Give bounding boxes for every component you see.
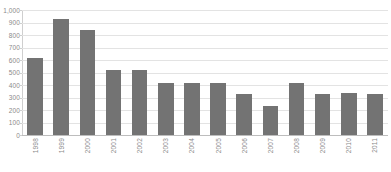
x-axis-tick-label: 2011	[371, 138, 378, 153]
x-axis-tick-label: 2008	[293, 138, 300, 153]
x-axis-tick-label: 2001	[110, 138, 117, 153]
x-axis-tick-label: 1998	[32, 138, 39, 153]
x-axis-tick-label: 2007	[267, 138, 274, 153]
y-axis-tick-label: 700	[0, 44, 20, 51]
bar	[315, 94, 331, 135]
bar	[132, 70, 148, 135]
y-axis-tick-label: 1,000	[0, 7, 20, 14]
bar	[210, 83, 226, 136]
x-axis-tick-label: 2004	[188, 138, 195, 153]
y-axis-tick-label: 100	[0, 119, 20, 126]
bar	[367, 94, 383, 135]
x-axis-tick-label: 2002	[136, 138, 143, 153]
x-axis-tick-label: 2006	[241, 138, 248, 153]
bar	[80, 30, 96, 135]
x-axis-tick-label: 2010	[345, 138, 352, 153]
y-axis-tick-label: 900	[0, 19, 20, 26]
bar	[53, 19, 69, 135]
bar	[184, 83, 200, 135]
x-axis-tick-label: 2000	[84, 138, 91, 153]
x-axis-tick-label: 2005	[215, 138, 222, 153]
bar	[236, 94, 252, 135]
y-axis-tick-label: 600	[0, 57, 20, 64]
x-axis-tick-labels: 1998199920002001200220032004200520062007…	[22, 136, 388, 172]
y-axis-tick-label: 800	[0, 32, 20, 39]
bar	[263, 106, 279, 135]
bar	[27, 58, 43, 135]
bars-layer	[22, 10, 388, 135]
bar-chart: 01002003004005006007008009001,000 199819…	[0, 0, 391, 172]
bar	[289, 83, 305, 135]
x-axis-tick-label: 2009	[319, 138, 326, 153]
y-axis-tick-label: 400	[0, 82, 20, 89]
bar	[158, 83, 174, 135]
y-axis-tick-label: 0	[0, 132, 20, 139]
y-axis-tick-label: 200	[0, 107, 20, 114]
y-axis-tick-label: 300	[0, 94, 20, 101]
x-axis-tick-label: 1999	[58, 138, 65, 153]
bar	[106, 70, 122, 135]
bar	[341, 93, 357, 135]
y-axis-tick-labels: 01002003004005006007008009001,000	[0, 0, 20, 145]
x-axis-tick-label: 2003	[162, 138, 169, 153]
y-axis-tick-label: 500	[0, 69, 20, 76]
